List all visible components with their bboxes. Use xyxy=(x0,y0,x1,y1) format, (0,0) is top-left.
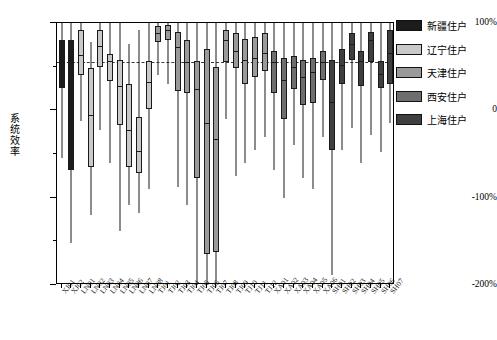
box-plot-item[interactable] xyxy=(358,23,364,285)
box-plot-item[interactable] xyxy=(378,23,384,285)
box-plot-item[interactable] xyxy=(291,23,297,285)
box-rect xyxy=(281,58,287,119)
box-rect xyxy=(68,40,74,169)
legend-item[interactable]: 天津住户 xyxy=(396,65,494,80)
box-plot-item[interactable] xyxy=(387,23,393,285)
y-axis-title: 系统效率 xyxy=(6,113,21,157)
median-line xyxy=(59,65,65,66)
box-rect xyxy=(387,30,393,84)
whisker-line xyxy=(274,23,275,170)
whisker-line xyxy=(119,23,120,231)
median-line xyxy=(204,123,210,124)
box-plot-item[interactable] xyxy=(204,23,210,285)
box-plot-item[interactable] xyxy=(223,23,229,285)
legend-item[interactable]: 上海住户 xyxy=(396,112,494,127)
box-rect xyxy=(126,84,132,167)
legend-label: 西安住户 xyxy=(427,89,467,104)
whisker-line xyxy=(322,23,323,137)
box-plot-item[interactable] xyxy=(329,23,335,285)
boxplot-figure: 系统效率 100%0-100%-200% XJ01XJ02LN01LN02LN0… xyxy=(0,0,497,340)
median-line xyxy=(300,77,306,78)
median-line xyxy=(329,102,335,103)
median-line xyxy=(262,53,268,54)
box-rect xyxy=(165,25,171,41)
box-plot-item[interactable] xyxy=(126,23,132,285)
box-rect xyxy=(310,58,316,103)
box-rect xyxy=(194,61,200,178)
median-line xyxy=(339,65,345,66)
box-plot-item[interactable] xyxy=(281,23,287,285)
box-plot-item[interactable] xyxy=(117,23,123,285)
whisker-line xyxy=(110,23,111,163)
box-rect xyxy=(107,54,113,80)
box-plot-item[interactable] xyxy=(320,23,326,285)
box-plot-item[interactable] xyxy=(339,23,345,285)
box-plot-item[interactable] xyxy=(68,23,74,285)
box-plot-item[interactable] xyxy=(349,23,355,285)
box-plot-item[interactable] xyxy=(242,23,248,285)
box-plot-item[interactable] xyxy=(233,23,239,285)
whisker-line xyxy=(312,23,313,189)
legend-item[interactable]: 辽宁住户 xyxy=(396,42,494,57)
median-line xyxy=(223,40,229,41)
box-rect xyxy=(242,39,248,84)
y-tick-label: -200% xyxy=(447,279,497,289)
box-plot-item[interactable] xyxy=(194,23,200,285)
whisker-line xyxy=(341,23,342,150)
box-plot-item[interactable] xyxy=(97,23,103,285)
legend-swatch xyxy=(396,20,422,31)
legend-swatch xyxy=(396,44,422,55)
median-line xyxy=(97,46,103,47)
box-plot-item[interactable] xyxy=(59,23,65,285)
median-line xyxy=(310,72,316,73)
box-rect xyxy=(136,117,142,173)
box-rect xyxy=(146,61,152,108)
median-line xyxy=(155,33,161,34)
box-plot-item[interactable] xyxy=(88,23,94,285)
box-rect xyxy=(213,67,219,252)
box-rect xyxy=(349,33,355,59)
legend-label: 上海住户 xyxy=(427,112,467,127)
box-plot-item[interactable] xyxy=(155,23,161,285)
box-rect xyxy=(175,32,181,91)
box-rect xyxy=(368,32,374,63)
box-plot-item[interactable] xyxy=(184,23,190,285)
box-plot-item[interactable] xyxy=(262,23,268,285)
median-line xyxy=(126,130,132,131)
box-plot-item[interactable] xyxy=(175,23,181,285)
box-plot-item[interactable] xyxy=(252,23,258,285)
median-line xyxy=(349,44,355,45)
box-plot-item[interactable] xyxy=(368,23,374,285)
box-plot-item[interactable] xyxy=(107,23,113,285)
median-line xyxy=(146,82,152,83)
median-line xyxy=(78,55,84,56)
box-plot-item[interactable] xyxy=(213,23,219,285)
box-rect xyxy=(223,30,229,62)
box-rect xyxy=(78,30,84,75)
box-plot-item[interactable] xyxy=(310,23,316,285)
median-line xyxy=(368,40,374,41)
median-line xyxy=(387,53,393,54)
box-rect xyxy=(291,56,297,89)
legend-label: 新疆住户 xyxy=(427,18,467,33)
median-line xyxy=(68,71,74,72)
box-plot-item[interactable] xyxy=(271,23,277,285)
median-line xyxy=(242,60,248,61)
box-plot-item[interactable] xyxy=(165,23,171,285)
box-rect xyxy=(204,49,210,254)
legend-item[interactable]: 西安住户 xyxy=(396,89,494,104)
plot-area xyxy=(56,22,394,284)
legend: 新疆住户辽宁住户天津住户西安住户上海住户 xyxy=(396,18,494,136)
median-line xyxy=(252,58,258,59)
box-plot-item[interactable] xyxy=(78,23,84,285)
legend-swatch xyxy=(396,114,422,125)
box-plot-item[interactable] xyxy=(136,23,142,285)
median-line xyxy=(233,51,239,52)
legend-swatch xyxy=(396,67,422,78)
box-plot-item[interactable] xyxy=(300,23,306,285)
legend-item[interactable]: 新疆住户 xyxy=(396,18,494,33)
box-rect xyxy=(358,51,364,86)
median-line xyxy=(320,62,326,63)
box-plot-item[interactable] xyxy=(146,23,152,285)
median-line xyxy=(136,151,142,152)
